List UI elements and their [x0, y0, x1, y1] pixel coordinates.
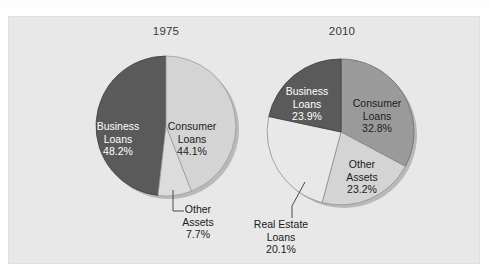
callout-label-real-estate-loans-2010: Real Estate Loans 20.1%	[237, 218, 325, 256]
callout-label-line1: Real Estate	[237, 218, 325, 231]
callout-label-line2: Assets	[165, 216, 231, 229]
callout-label-pct: 20.1%	[237, 243, 325, 256]
chart-title-2010: 2010	[267, 25, 417, 37]
cropped-text-remnant	[0, 0, 490, 9]
pie-svg-2010	[265, 56, 425, 216]
callout-label-pct: 7.7%	[165, 228, 231, 241]
pie-graphic-2010	[265, 56, 425, 216]
slice-business-loans-1975	[96, 56, 166, 196]
pie-graphic-1975	[91, 51, 241, 201]
callout-label-other-assets-1975: Other Assets 7.7%	[165, 203, 231, 241]
pie-svg-1975	[91, 51, 241, 201]
callout-label-line2: Loans	[237, 231, 325, 244]
callout-label-line1: Other	[165, 203, 231, 216]
pie-chart-2010: 2010 Business Loans 23.9% Consumer	[231, 25, 461, 260]
figure-panel: 1975 Business Loans 48.2% Consumer Loa	[8, 16, 480, 264]
